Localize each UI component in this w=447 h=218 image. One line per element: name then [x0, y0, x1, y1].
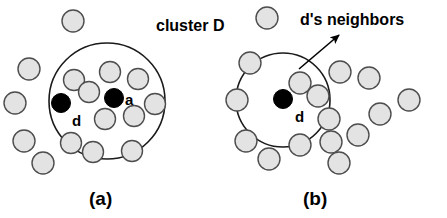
data-point-highlight: [52, 94, 71, 113]
data-point: [307, 85, 329, 107]
panel-caption-a: (a): [89, 188, 112, 209]
data-point: [145, 94, 166, 115]
data-point: [32, 152, 54, 174]
data-point: [369, 103, 391, 125]
data-point: [79, 82, 100, 103]
data-point: [320, 131, 342, 153]
data-point: [61, 133, 82, 154]
data-point: [256, 7, 278, 29]
data-point: [289, 134, 311, 156]
data-point: [226, 89, 248, 111]
data-point: [258, 148, 280, 170]
data-point: [122, 141, 143, 162]
data-point: [347, 124, 369, 146]
cluster-diagram-canvas: adcluster D(a)dd's neighbors(b): [0, 0, 447, 218]
panel-caption-b: (b): [303, 188, 327, 209]
data-point: [239, 52, 261, 74]
data-point: [62, 10, 84, 32]
data-point: [235, 130, 257, 152]
data-point: [18, 58, 40, 80]
point-label-d: d: [295, 108, 304, 125]
figure-container: adcluster D(a)dd's neighbors(b): [0, 0, 447, 218]
point-label-d: d: [72, 112, 81, 129]
boundary-label-a: cluster D: [156, 17, 224, 34]
data-point: [4, 92, 26, 114]
data-point: [329, 61, 351, 83]
data-point: [128, 69, 149, 90]
data-point: [100, 62, 121, 83]
data-point: [13, 130, 35, 152]
data-point: [95, 109, 116, 130]
data-point: [358, 67, 380, 89]
data-point-highlight: [274, 90, 293, 109]
data-point: [328, 152, 350, 174]
data-point: [83, 142, 104, 163]
neighbors-annotation-label: d's neighbors: [300, 11, 404, 28]
data-point-highlight: [105, 89, 124, 108]
data-point: [398, 89, 420, 111]
data-point: [124, 106, 145, 127]
data-point: [318, 108, 340, 130]
